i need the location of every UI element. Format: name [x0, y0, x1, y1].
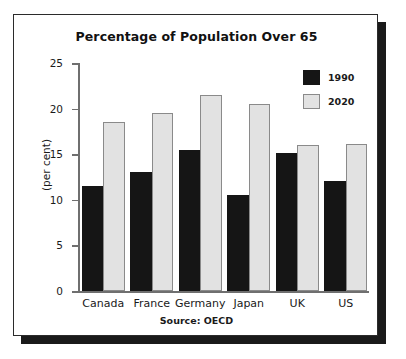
x-label-france: France — [133, 297, 170, 310]
y-tick-label-20: 20 — [50, 103, 63, 115]
y-tick-label-5: 5 — [56, 239, 63, 251]
chart-legend: 1990 2020 — [303, 67, 375, 115]
figure-frame: Percentage of Population Over 65 0510152… — [13, 14, 378, 336]
y-tick-15: 15 — [72, 154, 78, 156]
bar-germany-1990 — [179, 150, 201, 291]
bar-uk-1990 — [276, 153, 298, 291]
source-note: Source: OECD — [14, 315, 379, 326]
legend-item-1990: 1990 — [303, 67, 375, 87]
bar-france-1990 — [130, 172, 152, 291]
y-axis-title: (per cent) — [40, 139, 52, 191]
bar-germany-2020 — [200, 95, 222, 291]
legend-swatch-2020-icon — [303, 94, 320, 109]
y-tick-label-10: 10 — [50, 194, 63, 206]
legend-label-2020: 2020 — [328, 96, 354, 107]
bar-canada-2020 — [103, 122, 125, 291]
y-tick-20: 20 — [72, 109, 78, 111]
legend-swatch-1990-icon — [303, 70, 320, 85]
bar-us-1990 — [324, 181, 346, 291]
legend-label-1990: 1990 — [328, 72, 354, 83]
chart-title: Percentage of Population Over 65 — [14, 29, 379, 44]
bar-japan-1990 — [227, 195, 249, 291]
x-label-japan: Japan — [233, 297, 264, 310]
x-label-uk: UK — [290, 297, 305, 310]
bar-japan-2020 — [249, 104, 271, 291]
x-label-us: US — [338, 297, 353, 310]
y-tick-25: 25 — [72, 63, 78, 65]
y-tick-0: 0 — [72, 291, 78, 293]
bar-uk-2020 — [297, 145, 319, 291]
screenshot-root: Percentage of Population Over 65 0510152… — [0, 0, 406, 359]
legend-item-2020: 2020 — [303, 91, 375, 111]
x-label-germany: Germany — [175, 297, 226, 310]
y-tick-label-25: 25 — [50, 57, 63, 69]
bar-france-2020 — [152, 113, 174, 291]
y-axis-line — [78, 63, 80, 291]
x-axis-line — [78, 291, 369, 293]
y-tick-5: 5 — [72, 245, 78, 247]
bar-us-2020 — [346, 144, 368, 291]
y-tick-label-0: 0 — [56, 285, 63, 297]
bar-canada-1990 — [82, 186, 104, 291]
y-tick-10: 10 — [72, 200, 78, 202]
x-label-canada: Canada — [82, 297, 124, 310]
